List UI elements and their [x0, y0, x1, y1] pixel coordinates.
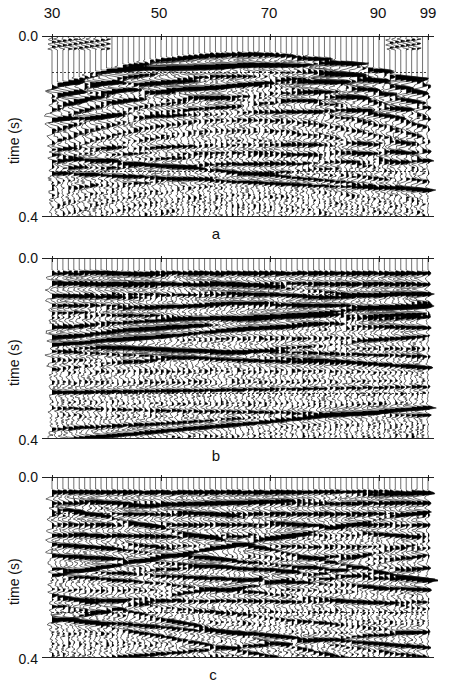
caption-b: b	[212, 447, 220, 464]
ytick-bottom-a: 0.4	[4, 209, 38, 225]
ylabel-b: time (s)	[6, 339, 22, 386]
caption-a: a	[212, 225, 220, 242]
xtick-90: 90	[370, 4, 387, 21]
ytick-top-c: 0.0	[4, 469, 38, 485]
xtick-70: 70	[261, 4, 278, 21]
xtick-99: 99	[420, 4, 437, 21]
seismic-plot-a	[42, 34, 438, 218]
ytick-bottom-b: 0.4	[4, 432, 38, 448]
xtick-30: 30	[44, 4, 61, 21]
xtick-50: 50	[151, 4, 168, 21]
seismic-plot-c	[42, 475, 438, 659]
ylabel-c: time (s)	[6, 558, 22, 605]
seismic-plot-b	[42, 256, 438, 440]
ylabel-a: time (s)	[6, 117, 22, 164]
ytick-top-a: 0.0	[4, 28, 38, 44]
ytick-bottom-c: 0.4	[4, 651, 38, 667]
caption-c: c	[209, 666, 217, 683]
ytick-top-b: 0.0	[4, 250, 38, 266]
